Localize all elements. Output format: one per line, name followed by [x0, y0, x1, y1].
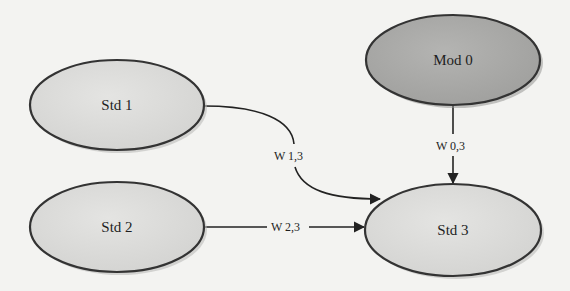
- node-std3[interactable]: Std 3: [365, 184, 544, 279]
- node-mod0[interactable]: Mod 0: [366, 15, 543, 108]
- edge-w23: W 2,3: [204, 220, 364, 234]
- node-label-mod0: Mod 0: [433, 52, 473, 68]
- edge-label-w23: W 2,3: [271, 220, 300, 234]
- edge-line-w13-arrow: [295, 167, 380, 199]
- node-label-std3: Std 3: [437, 222, 468, 238]
- node-std2[interactable]: Std 2: [30, 182, 207, 275]
- edge-label-w13: W 1,3: [274, 149, 303, 163]
- node-label-std2: Std 2: [101, 219, 132, 235]
- diagram-canvas: W 1,3 W 2,3 W 0,3 Std 1 Std 2 Mod 0 Std …: [0, 0, 570, 291]
- node-label-std1: Std 1: [101, 97, 132, 113]
- node-std1[interactable]: Std 1: [30, 60, 207, 153]
- edge-w13: W 1,3: [204, 106, 380, 199]
- edge-label-w03: W 0,3: [436, 139, 465, 153]
- edge-line-w13: [204, 106, 294, 144]
- edge-w03: W 0,3: [436, 105, 465, 183]
